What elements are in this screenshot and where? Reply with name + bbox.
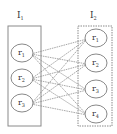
- node-I2-r1: r1: [85, 29, 107, 47]
- edge-I1-r3-I2-r2: [31, 64, 87, 104]
- edge-I1-r2-I2-r2: [31, 64, 87, 79]
- node-I2-r3: r3: [85, 80, 107, 98]
- edge-I1-r1-I2-r1: [31, 39, 87, 54]
- edge-I1-r3-I2-r3: [31, 90, 87, 104]
- node-I2-r4: r4: [85, 105, 107, 123]
- group-i1-title: I1: [17, 10, 24, 21]
- bipartite-diagram: I1 I2 r1r2r3r1r2r3r4: [0, 0, 117, 134]
- node-I1-r2: r2: [11, 69, 33, 87]
- node-I1-r3: r3: [11, 94, 33, 112]
- nodes-layer: r1r2r3r1r2r3r4: [11, 29, 107, 123]
- node-I2-r2: r2: [85, 54, 107, 72]
- edge-I1-r2-I2-r1: [31, 39, 87, 79]
- node-I1-r1: r1: [11, 44, 33, 62]
- edges-layer: [31, 39, 87, 115]
- group-i2-title: I2: [90, 10, 97, 21]
